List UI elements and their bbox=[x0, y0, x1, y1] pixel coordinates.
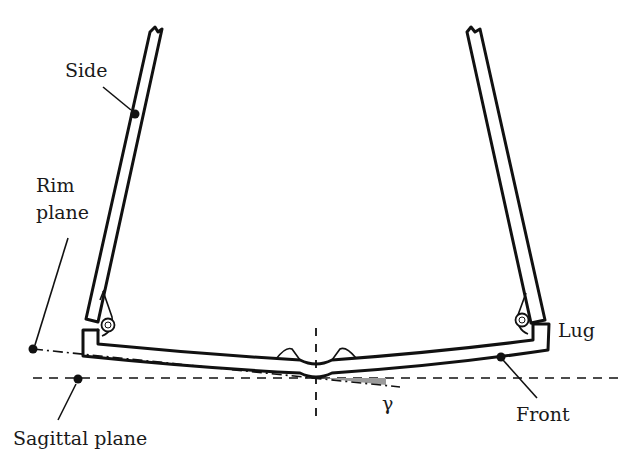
rim-plane-label-line1: Rim bbox=[36, 174, 74, 196]
rim-plane-label-line2: plane bbox=[36, 201, 89, 223]
rim-plane-pointer bbox=[29, 238, 69, 354]
sagittal-plane-label: Sagittal plane bbox=[13, 427, 147, 449]
lug-label: Lug bbox=[558, 319, 595, 341]
side-label: Side bbox=[65, 59, 108, 81]
front-pointer bbox=[497, 353, 538, 399]
gamma-angle-label: γ bbox=[382, 392, 393, 414]
sagittal-plane-pointer bbox=[58, 375, 83, 421]
right-side-temple bbox=[467, 27, 545, 323]
spectacle-frame-diagram: Side Rim plane Lug Front γ Sagittal plan… bbox=[0, 0, 632, 466]
front-label: Front bbox=[516, 403, 570, 425]
